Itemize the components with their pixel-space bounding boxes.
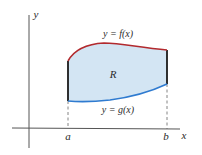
label-f: y = f(x) [102,28,134,40]
area-between-curves-diagram: y = f(x) y = g(x) R a b x y [0,0,202,155]
x-axis [12,128,180,129]
region-r-fill [68,43,167,102]
label-region-r: R [109,68,117,80]
label-b: b [163,130,169,142]
label-y-axis: y [33,8,39,20]
label-g: y = g(x) [101,104,135,116]
label-x-axis: x [181,129,187,141]
label-a: a [65,130,71,142]
